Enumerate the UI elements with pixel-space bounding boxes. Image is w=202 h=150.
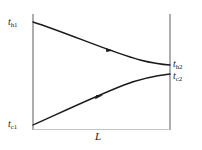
label-cold-inlet-subscript: c1: [11, 123, 17, 131]
label-cold-outlet-subscript: c2: [176, 75, 182, 83]
label-hot-inlet-subscript: h1: [11, 21, 18, 29]
hot-fluid-curve: [33, 22, 170, 65]
label-cold-inlet-temperature: tc1: [8, 119, 17, 129]
label-hot-outlet-subscript: h2: [176, 63, 183, 71]
label-hot-inlet-temperature: th1: [8, 17, 17, 27]
label-hot-outlet-temperature: th2: [173, 59, 182, 69]
cold-fluid-curve: [33, 74, 170, 125]
label-cold-outlet-temperature: tc2: [173, 71, 182, 81]
heat-exchanger-figure: th1 tc1 th2 tc2 L: [0, 0, 202, 150]
temperature-profile-plot: [0, 0, 202, 150]
cold-flow-arrow-icon: [95, 95, 103, 99]
label-length-axis: L: [95, 131, 101, 142]
